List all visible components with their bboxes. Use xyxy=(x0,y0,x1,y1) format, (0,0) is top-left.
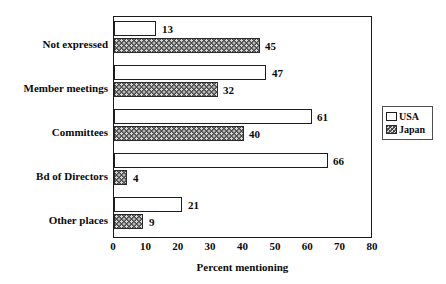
y-axis-label-bd-of-directors: Bd of Directors xyxy=(0,171,108,182)
chart-legend: USA Japan xyxy=(382,106,433,140)
x-tick-40: 40 xyxy=(237,241,248,252)
bar-member-meetings-japan xyxy=(114,82,218,97)
bar-value-other-places-usa: 21 xyxy=(188,199,199,210)
x-tick-30: 30 xyxy=(205,241,216,252)
x-tick-10: 10 xyxy=(140,241,151,252)
bar-value-committees-usa: 61 xyxy=(317,111,328,122)
y-axis-label-committees: Committees xyxy=(0,127,108,138)
bar-value-member-meetings-japan: 32 xyxy=(223,84,234,95)
legend-label-usa: USA xyxy=(399,112,419,122)
y-axis-label-other-places: Other places xyxy=(0,215,108,226)
bar-value-member-meetings-usa: 47 xyxy=(272,67,283,78)
bar-value-not-expressed-usa: 13 xyxy=(162,23,173,34)
x-axis-tick-labels: 0 10 20 30 40 50 60 70 80 xyxy=(113,241,372,257)
bar-not-expressed-japan xyxy=(114,38,260,53)
y-axis-label-not-expressed: Not expressed xyxy=(0,39,108,50)
x-tick-80: 80 xyxy=(367,241,378,252)
legend-entry-japan: Japan xyxy=(386,123,429,136)
bar-member-meetings-usa xyxy=(114,65,266,80)
bar-value-committees-japan: 40 xyxy=(249,128,260,139)
bar-value-not-expressed-japan: 45 xyxy=(265,40,276,51)
x-tick-60: 60 xyxy=(302,241,313,252)
legend-entry-usa: USA xyxy=(386,110,429,123)
bar-committees-usa xyxy=(114,109,312,124)
x-tick-0: 0 xyxy=(110,241,116,252)
legend-swatch-japan-icon xyxy=(386,125,397,134)
x-tick-70: 70 xyxy=(334,241,345,252)
bar-other-places-japan xyxy=(114,214,143,229)
bar-chart-figure: Not expressed Member meetings Committees… xyxy=(0,0,446,284)
bar-value-bd-of-directors-usa: 66 xyxy=(333,155,344,166)
bar-committees-japan xyxy=(114,126,244,141)
legend-label-japan: Japan xyxy=(399,125,425,135)
bar-bd-of-directors-japan xyxy=(114,170,127,185)
x-tick-50: 50 xyxy=(269,241,280,252)
bar-not-expressed-usa xyxy=(114,21,156,36)
bar-other-places-usa xyxy=(114,197,182,212)
x-tick-20: 20 xyxy=(172,241,183,252)
x-axis-title: Percent mentioning xyxy=(113,262,372,273)
legend-swatch-usa-icon xyxy=(386,112,397,121)
bar-bd-of-directors-usa xyxy=(114,153,328,168)
y-axis-label-member-meetings: Member meetings xyxy=(0,83,108,94)
plot-area: 13 45 47 32 61 xyxy=(113,16,372,238)
bar-value-bd-of-directors-japan: 4 xyxy=(133,172,139,183)
bar-value-other-places-japan: 9 xyxy=(149,216,155,227)
